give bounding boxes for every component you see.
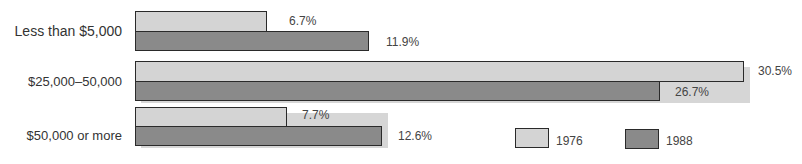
bar-1976-50000-or-more <box>135 107 287 127</box>
legend-swatch-1988 <box>625 129 659 149</box>
bar-1976-25000-50000 <box>135 61 744 82</box>
value-label-1976-less-than-5000: 6.7% <box>289 14 316 28</box>
category-label-less-than-5000: Less than $5,000 <box>15 23 122 39</box>
category-label-25000-50000: $25,000–50,000 <box>28 74 122 89</box>
legend-label-1976: 1976 <box>556 134 583 148</box>
value-label-1976-25000-50000: 30.5% <box>758 64 792 78</box>
income-bar-chart: Less than $5,000 $25,000–50,000 $50,000 … <box>0 0 802 164</box>
bar-1988-50000-or-more <box>135 126 382 146</box>
category-label-50000-or-more: $50,000 or more <box>27 128 122 143</box>
value-label-1988-50000-or-more: 12.6% <box>398 129 432 143</box>
legend-swatch-1976 <box>515 128 549 148</box>
bar-1976-less-than-5000 <box>135 11 267 32</box>
bar-1988-25000-50000 <box>135 81 660 101</box>
value-label-1976-50000-or-more: 7.7% <box>302 108 329 122</box>
legend-label-1988: 1988 <box>666 134 693 148</box>
bar-1988-less-than-5000 <box>135 31 369 51</box>
value-label-1988-less-than-5000: 11.9% <box>386 35 419 49</box>
value-label-1988-25000-50000: 26.7% <box>675 85 709 99</box>
